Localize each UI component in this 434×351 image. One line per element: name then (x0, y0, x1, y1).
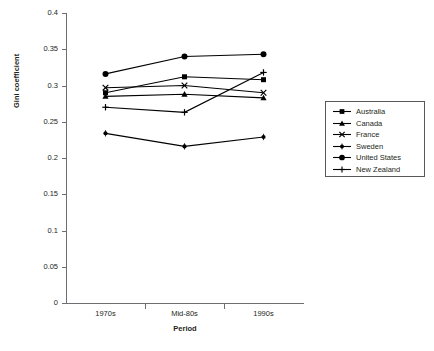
marker-square (261, 77, 266, 82)
legend-item-label: Australia (356, 107, 385, 116)
marker-plus (339, 166, 345, 172)
legend-item-canada[interactable]: Canada (332, 118, 424, 129)
legend-item-france[interactable]: France (332, 129, 424, 140)
legend-marker-icon (332, 106, 352, 117)
marker-circle (261, 51, 267, 57)
marker-square (182, 74, 187, 79)
legend-marker-icon (332, 118, 352, 129)
marker-dot (340, 143, 344, 149)
marker-dot (261, 134, 265, 140)
legend-item-new-zealand[interactable]: New Zealand (332, 164, 424, 175)
marker-plus (181, 109, 187, 115)
marker-dot (103, 130, 107, 136)
caption-strip (0, 343, 434, 351)
legend-item-label: United States (356, 153, 401, 162)
legend-item-label: Sweden (356, 142, 383, 151)
legend-item-sweden[interactable]: Sweden (332, 141, 424, 152)
legend-marker-icon (332, 141, 352, 152)
legend-item-label: France (356, 130, 379, 139)
marker-plus (260, 69, 266, 75)
marker-circle (103, 71, 109, 77)
legend-item-label: Canada (356, 119, 382, 128)
series-canada (102, 91, 266, 100)
marker-circle (182, 54, 188, 60)
legend-marker-icon (332, 164, 352, 175)
series-united-states (103, 51, 267, 77)
legend-item-united-states[interactable]: United States (332, 152, 424, 163)
legend-marker-icon (332, 129, 352, 140)
legend-item-label: New Zealand (356, 165, 400, 174)
marker-circle (339, 155, 345, 161)
marker-dot (182, 143, 186, 149)
series-sweden (103, 130, 265, 149)
chart-legend: AustraliaCanadaFranceSwedenUnited States… (325, 101, 425, 177)
legend-marker-icon (332, 152, 352, 163)
legend-item-australia[interactable]: Australia (332, 106, 424, 117)
marker-plus (102, 104, 108, 110)
marker-square (340, 109, 345, 114)
chart-figure: 00.050.10.150.20.250.30.350.4 1970sMid-8… (0, 0, 434, 351)
